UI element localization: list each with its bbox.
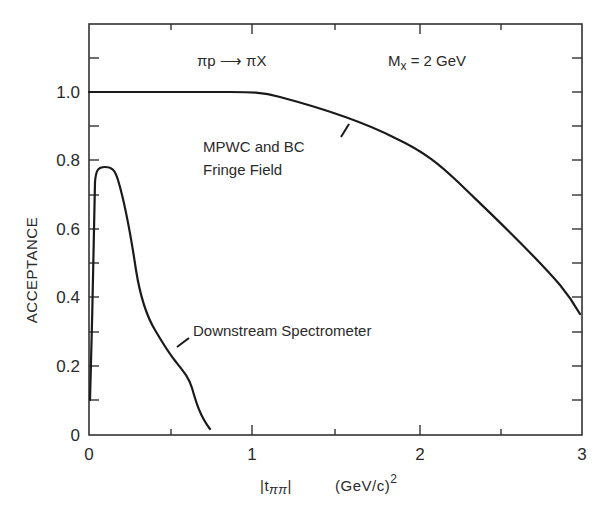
series-downstream-spectrometer xyxy=(90,167,210,429)
x-tick-0: 0 xyxy=(84,445,93,464)
y-tick-0.8: 0.8 xyxy=(56,151,80,170)
series2-pointer-arrow-icon xyxy=(177,338,189,347)
y-axis-title: ACCEPTANCE xyxy=(23,217,40,323)
y-tick-0.4: 0.4 xyxy=(56,288,80,307)
acceptance-chart: 0 0.2 0.4 0.6 0.8 1.0 0 1 2 3 ACCEPTANCE… xyxy=(0,0,604,521)
x-tick-2: 2 xyxy=(415,445,424,464)
x-axis-title: |tππ| (GeV/c)2 xyxy=(260,472,397,497)
x-axis-subscript: ππ xyxy=(269,482,287,497)
x-tick-1: 1 xyxy=(247,445,256,464)
x-ticks-bottom xyxy=(171,425,501,435)
x-axis-exponent: 2 xyxy=(390,472,397,486)
y-tick-0.2: 0.2 xyxy=(56,357,80,376)
svg-text:(GeV/c)2: (GeV/c)2 xyxy=(335,472,397,494)
x-tick-3: 3 xyxy=(577,445,586,464)
x-axis-units: (GeV/c) xyxy=(335,477,390,494)
series2-label: Downstream Spectrometer xyxy=(193,322,371,339)
y-tick-1.0: 1.0 xyxy=(56,83,80,102)
series1-label-line1: MPWC and BC xyxy=(203,138,305,155)
svg-text:|tππ|: |tππ| xyxy=(260,477,292,497)
series1-label-line2: Fringe Field xyxy=(203,161,282,178)
x-ticks-top xyxy=(171,24,501,34)
y-tick-labels: 0 0.2 0.4 0.6 0.8 1.0 xyxy=(56,83,80,445)
x-axis-abs-open: |t xyxy=(260,477,269,494)
reaction-label: πp ⟶ πX xyxy=(197,52,266,69)
mass-label: Mx = 2 GeV xyxy=(388,52,466,73)
x-axis-abs-close: | xyxy=(288,477,292,494)
series1-pointer-arrow-icon xyxy=(341,124,349,137)
y-tick-0: 0 xyxy=(71,426,80,445)
series-mpwc-bc-fringe-field xyxy=(89,92,580,314)
y-tick-0.6: 0.6 xyxy=(56,220,80,239)
x-tick-labels: 0 1 2 3 xyxy=(84,445,586,464)
y-ticks-right xyxy=(572,58,582,400)
